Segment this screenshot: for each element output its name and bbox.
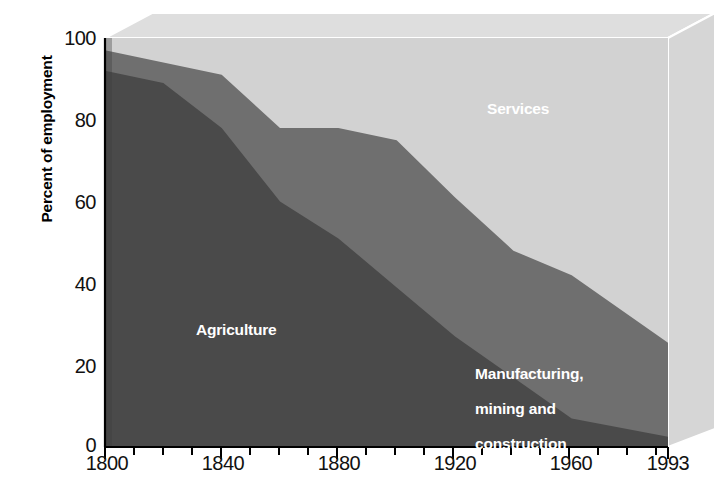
y-tick-100: 100 (42, 27, 96, 50)
series-label-manufacturing: Manufacturing, mining and construction (475, 347, 583, 470)
chart-figure: Percent of employment 100 80 60 40 20 0 … (0, 0, 727, 499)
x-tick-1800: 1800 (62, 452, 152, 475)
series-label-agriculture: Agriculture (196, 321, 276, 339)
stacked-area-plot (0, 0, 727, 499)
y-tick-40: 40 (42, 273, 96, 296)
box-top-face (105, 13, 715, 38)
series-label-services: Services (487, 100, 549, 118)
y-axis-ticklabels: 100 80 60 40 20 0 (20, 0, 96, 499)
series-label-manufacturing-line1: Manufacturing, (475, 365, 583, 383)
series-label-manufacturing-line2: mining and (475, 400, 583, 418)
y-tick-60: 60 (42, 191, 96, 214)
x-tick-1840: 1840 (178, 452, 268, 475)
x-tick-1880: 1880 (294, 452, 384, 475)
x-axis-ticklabels: 1800 1840 1880 1920 1960 1993 (0, 452, 727, 492)
box-right-face (668, 13, 715, 447)
y-tick-80: 80 (42, 109, 96, 132)
y-tick-20: 20 (42, 355, 96, 378)
x-tick-1993: 1993 (623, 452, 713, 475)
series-label-manufacturing-line3: construction (475, 435, 583, 453)
